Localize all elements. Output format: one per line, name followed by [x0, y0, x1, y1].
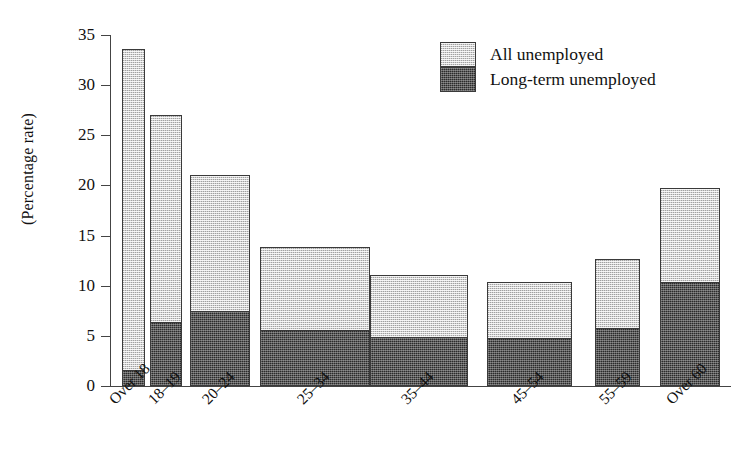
- y-tick-label-0: 0: [43, 377, 95, 394]
- bar-segment-all-unemployed: [370, 275, 468, 338]
- bar-45-54: [487, 282, 572, 386]
- y-tick-15: [101, 236, 110, 237]
- bar-18-19: [150, 115, 182, 386]
- bar-35-44: [370, 275, 468, 386]
- legend-label-all-unemployed: All unemployed: [490, 42, 656, 67]
- legend-swatch: [440, 42, 476, 92]
- bar-over-60: [660, 188, 720, 386]
- y-tick-label-30: 30: [43, 76, 95, 93]
- bar-segment-all-unemployed: [487, 282, 572, 339]
- bar-segment-all-unemployed: [190, 175, 250, 311]
- bar-25-34: [260, 247, 370, 386]
- y-axis-line: [110, 35, 111, 387]
- bar-segment-all-unemployed: [260, 247, 370, 331]
- bar-segment-all-unemployed: [150, 115, 182, 323]
- legend-swatch-long-term-unemployed: [440, 67, 476, 92]
- stacked-bar-chart: (Percentage rate) 35302520151050 Over 18…: [0, 0, 741, 467]
- y-tick-label-35: 35: [43, 26, 95, 43]
- bar-55-59: [595, 259, 640, 386]
- y-tick-5: [101, 336, 110, 337]
- y-tick-30: [101, 85, 110, 86]
- chart-legend: All unemployed Long-term unemployed: [440, 42, 656, 92]
- bar-over-18: [122, 49, 145, 386]
- bar-segment-all-unemployed: [595, 259, 640, 329]
- y-tick-label-20: 20: [43, 176, 95, 193]
- legend-swatch-all-unemployed: [440, 42, 476, 67]
- legend-label-long-term-unemployed: Long-term unemployed: [490, 67, 656, 92]
- y-tick-0: [101, 386, 110, 387]
- bar-segment-all-unemployed: [660, 188, 720, 282]
- y-tick-10: [101, 286, 110, 287]
- y-axis-title: (Percentage rate): [19, 69, 37, 269]
- y-tick-label-25: 25: [43, 126, 95, 143]
- y-tick-20: [101, 185, 110, 186]
- y-tick-label-5: 5: [43, 327, 95, 344]
- y-tick-label-15: 15: [43, 227, 95, 244]
- y-tick-25: [101, 135, 110, 136]
- y-tick-35: [101, 35, 110, 36]
- legend-labels: All unemployed Long-term unemployed: [490, 42, 656, 92]
- bar-segment-all-unemployed: [122, 49, 145, 371]
- y-tick-label-10: 10: [43, 277, 95, 294]
- bar-20-24: [190, 175, 250, 386]
